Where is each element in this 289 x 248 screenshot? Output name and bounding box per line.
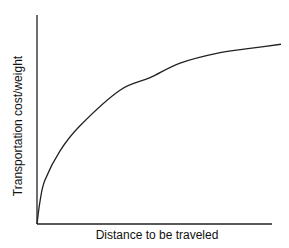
x-axis-label: Distance to be traveled [96, 228, 219, 242]
cost-curve [37, 44, 281, 224]
y-axis-label: Transportation cost/weight [11, 56, 25, 196]
chart-plot [0, 0, 289, 248]
